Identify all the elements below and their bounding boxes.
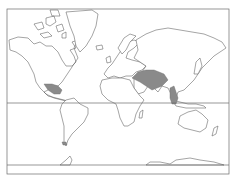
north-america — [9, 37, 78, 104]
south-america — [60, 98, 88, 146]
iceland — [96, 45, 103, 50]
world-map — [0, 0, 234, 175]
new-zealand — [212, 126, 218, 136]
highlight-tierra-del-fuego — [62, 142, 67, 145]
greenland — [66, 10, 98, 52]
british-isles — [106, 56, 111, 63]
madagascar — [139, 110, 143, 118]
asia — [134, 28, 226, 98]
arctic-islands — [34, 10, 66, 38]
antarctica — [60, 156, 224, 165]
australia — [178, 110, 208, 132]
